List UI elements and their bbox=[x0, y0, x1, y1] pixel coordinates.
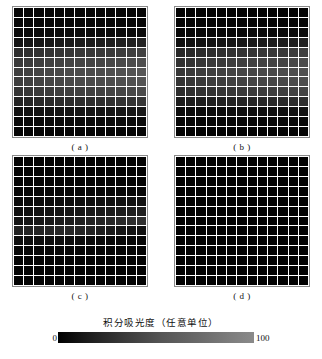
heatmap-cell bbox=[14, 127, 23, 136]
heatmap-cell bbox=[268, 117, 277, 126]
heatmap-cell bbox=[55, 127, 64, 136]
heatmap-cell bbox=[45, 177, 54, 186]
heatmap-cell bbox=[65, 77, 74, 86]
heatmap-cell bbox=[137, 246, 146, 255]
heatmap-cell bbox=[137, 48, 146, 57]
heatmap-cell bbox=[75, 207, 84, 216]
heatmap-cell bbox=[137, 18, 146, 27]
heatmap-cell bbox=[176, 246, 185, 255]
heatmap-cell bbox=[86, 256, 95, 265]
heatmap-cell bbox=[55, 58, 64, 67]
heatmap-cell bbox=[45, 117, 54, 126]
heatmap-cell bbox=[248, 18, 257, 27]
heatmap-cell bbox=[258, 246, 267, 255]
heatmap-cell bbox=[127, 107, 136, 116]
heatmap-cell bbox=[207, 167, 216, 176]
heatmap-cell bbox=[34, 187, 43, 196]
heatmap-cell bbox=[14, 157, 23, 166]
heatmap-cell bbox=[127, 97, 136, 106]
heatmap-cell bbox=[248, 246, 257, 255]
heatmap-cell bbox=[196, 127, 205, 136]
heatmap-cell bbox=[217, 197, 226, 206]
heatmap-cell bbox=[207, 107, 216, 116]
heatmap-cell bbox=[237, 236, 246, 245]
heatmap-cell bbox=[75, 127, 84, 136]
heatmap-cell bbox=[86, 87, 95, 96]
heatmap-cell bbox=[268, 207, 277, 216]
heatmap-cell bbox=[268, 187, 277, 196]
heatmap-cell bbox=[55, 197, 64, 206]
heatmap-cell bbox=[14, 187, 23, 196]
heatmap-cell bbox=[65, 167, 74, 176]
heatmap-cell bbox=[289, 117, 298, 126]
heatmap-cell bbox=[34, 266, 43, 275]
heatmap-cell bbox=[96, 87, 105, 96]
heatmap-cell bbox=[237, 246, 246, 255]
heatmap-cell bbox=[106, 256, 115, 265]
heatmap-cell bbox=[278, 38, 287, 47]
heatmap-cell bbox=[34, 276, 43, 285]
heatmap-cell bbox=[207, 68, 216, 77]
heatmap-cell bbox=[127, 87, 136, 96]
heatmap-cell bbox=[237, 177, 246, 186]
heatmap-cell bbox=[258, 207, 267, 216]
heatmap-cell bbox=[176, 167, 185, 176]
heatmap-cell bbox=[196, 77, 205, 86]
heatmap-cell bbox=[116, 207, 125, 216]
heatmap-cell bbox=[137, 38, 146, 47]
heatmap-cell bbox=[278, 18, 287, 27]
heatmap-cell bbox=[24, 28, 33, 37]
heatmap-cell bbox=[258, 28, 267, 37]
heatmap-cell bbox=[116, 107, 125, 116]
heatmap-cell bbox=[299, 256, 308, 265]
heatmap-cell bbox=[289, 28, 298, 37]
heatmap-cell bbox=[116, 8, 125, 17]
heatmap-cell bbox=[248, 187, 257, 196]
colorbar-title: 积分吸光度（任意单位） bbox=[0, 316, 322, 329]
heatmap-cell bbox=[65, 87, 74, 96]
heatmap-cell bbox=[196, 38, 205, 47]
heatmap-cell bbox=[75, 236, 84, 245]
heatmap-cell bbox=[278, 107, 287, 116]
heatmap-cell bbox=[106, 8, 115, 17]
heatmap-cell bbox=[237, 58, 246, 67]
heatmap-cell bbox=[116, 217, 125, 226]
colorbar-max-label: 100 bbox=[256, 333, 270, 343]
heatmap-cell bbox=[227, 157, 236, 166]
heatmap-cell bbox=[34, 117, 43, 126]
heatmap-cell bbox=[196, 18, 205, 27]
heatmap-cell bbox=[45, 167, 54, 176]
heatmap-cell bbox=[237, 77, 246, 86]
heatmap-cell bbox=[24, 48, 33, 57]
heatmap-cell bbox=[268, 236, 277, 245]
heatmap-cell bbox=[227, 58, 236, 67]
heatmap-cell bbox=[137, 8, 146, 17]
heatmap-cell bbox=[278, 246, 287, 255]
heatmap-cell bbox=[268, 226, 277, 235]
heatmap-cell bbox=[86, 207, 95, 216]
heatmap-cell bbox=[75, 167, 84, 176]
heatmap-cell bbox=[65, 266, 74, 275]
heatmap-cell bbox=[299, 68, 308, 77]
heatmap-cell bbox=[24, 8, 33, 17]
heatmap-cell bbox=[196, 266, 205, 275]
heatmap-cell bbox=[217, 48, 226, 57]
heatmap-cell bbox=[34, 177, 43, 186]
heatmap-cell bbox=[227, 207, 236, 216]
heatmap-cell bbox=[268, 256, 277, 265]
heatmap-cell bbox=[248, 107, 257, 116]
heatmap-cell bbox=[237, 187, 246, 196]
heatmap-cell bbox=[299, 97, 308, 106]
heatmap-cell bbox=[106, 177, 115, 186]
heatmap-cell bbox=[289, 217, 298, 226]
heatmap-cell bbox=[278, 77, 287, 86]
heatmap-cell bbox=[278, 8, 287, 17]
heatmap-cell bbox=[289, 266, 298, 275]
heatmap-cell bbox=[227, 276, 236, 285]
heatmap-cell bbox=[65, 246, 74, 255]
heatmap-cell bbox=[55, 18, 64, 27]
heatmap-cell bbox=[186, 127, 195, 136]
heatmap-cell bbox=[116, 226, 125, 235]
heatmap-cell bbox=[14, 58, 23, 67]
heatmap-cell bbox=[207, 38, 216, 47]
